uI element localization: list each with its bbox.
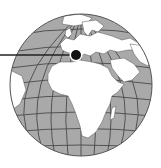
location-marker bbox=[71, 50, 81, 60]
globe-svg bbox=[0, 0, 161, 168]
globe-illustration: Orthographic globe centered on Africa an… bbox=[0, 0, 161, 168]
